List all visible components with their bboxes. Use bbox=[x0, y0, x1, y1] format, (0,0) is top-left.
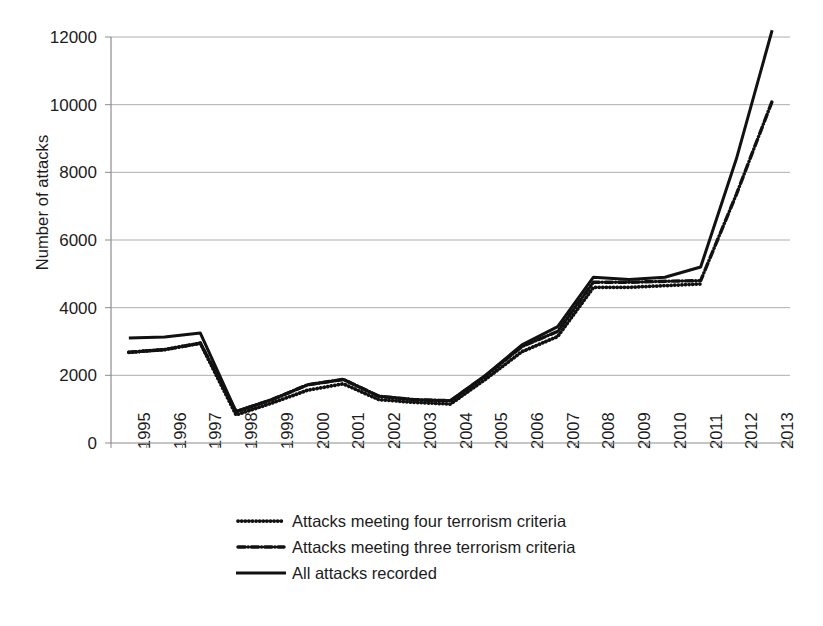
data-series bbox=[129, 30, 772, 415]
series-line-2 bbox=[129, 30, 772, 411]
dash-dot-line-key bbox=[232, 538, 290, 556]
chart-figure: Number of attacks 0200040006000800010000… bbox=[0, 0, 823, 626]
legend-item: Attacks meeting four terrorism criteria bbox=[232, 508, 652, 534]
legend-item: All attacks recorded bbox=[232, 560, 652, 586]
dotted-line-key bbox=[232, 512, 290, 530]
legend-label: Attacks meeting four terrorism criteria bbox=[290, 512, 566, 531]
legend-label: All attacks recorded bbox=[290, 564, 437, 583]
x-axis-tick-marks bbox=[111, 443, 790, 448]
series-line-0 bbox=[129, 284, 701, 415]
y-axis-tick-marks bbox=[105, 37, 111, 443]
chart-legend: Attacks meeting four terrorism criteriaA… bbox=[232, 508, 652, 586]
legend-item: Attacks meeting three terrorism criteria bbox=[232, 534, 652, 560]
legend-label: Attacks meeting three terrorism criteria bbox=[290, 538, 575, 557]
series-line-1 bbox=[129, 101, 772, 411]
solid-line-key bbox=[232, 564, 290, 582]
gridlines bbox=[111, 37, 790, 375]
